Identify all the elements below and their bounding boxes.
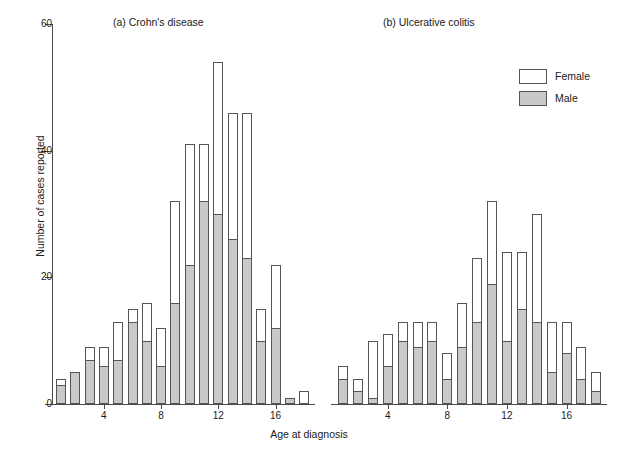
legend-label-male: Male <box>555 92 578 104</box>
male-swatch-icon <box>519 91 547 106</box>
bar-male-age-5 <box>398 341 408 404</box>
bar-male-age-10 <box>185 265 195 404</box>
bar-male-age-9 <box>170 303 180 404</box>
bar-male-age-2 <box>353 391 363 404</box>
bar-male-age-11 <box>199 201 209 404</box>
bar-male-age-4 <box>383 366 393 404</box>
bar-male-age-13 <box>228 239 238 404</box>
x-tick-label-16: 16 <box>266 410 286 421</box>
bar-male-age-8 <box>442 379 452 404</box>
panel-b-title: (b) Ulcerative colitis <box>383 16 475 28</box>
x-tick-mark-12 <box>507 404 508 409</box>
bar-male-age-12 <box>213 214 223 404</box>
legend-item-female: Female <box>519 66 615 88</box>
bar-male-age-11 <box>487 284 497 404</box>
y-tick-60: 60 <box>0 24 52 25</box>
y-tick-0: 0 <box>0 404 52 405</box>
x-tick-label-8: 8 <box>437 410 457 421</box>
legend-item-male: Male <box>519 88 615 110</box>
x-tick-mark-12 <box>218 404 219 409</box>
bar-male-age-8 <box>156 366 166 404</box>
bar-male-age-3 <box>368 398 378 404</box>
bar-male-age-12 <box>502 341 512 404</box>
figure-root: 0204060 481216 481216 (a) Crohn's diseas… <box>0 0 618 450</box>
panel-a-title: (a) Crohn's disease <box>113 16 204 28</box>
bar-male-age-1 <box>338 379 348 404</box>
y-tick-label-0: 0 <box>24 399 52 409</box>
bar-male-age-16 <box>562 353 572 404</box>
x-tick-label-8: 8 <box>151 410 171 421</box>
x-axis-title: Age at diagnosis <box>0 428 618 440</box>
x-tick-mark-8 <box>161 404 162 409</box>
bar-male-age-7 <box>427 341 437 404</box>
y-axis-line <box>52 24 53 405</box>
bar-male-age-10 <box>472 322 482 404</box>
bar-total-age-18 <box>299 391 309 404</box>
bar-male-age-4 <box>99 366 109 404</box>
bar-male-age-6 <box>413 347 423 404</box>
x-tick-label-4: 4 <box>94 410 114 421</box>
bar-male-age-5 <box>113 360 123 404</box>
x-tick-mark-8 <box>447 404 448 409</box>
y-axis-title: Number of cases reported <box>34 96 46 296</box>
bar-male-age-2 <box>70 372 80 404</box>
bar-male-age-3 <box>85 360 95 404</box>
x-tick-mark-4 <box>104 404 105 409</box>
x-tick-label-12: 12 <box>208 410 228 421</box>
legend-label-female: Female <box>555 70 590 82</box>
bar-male-age-14 <box>532 322 542 404</box>
bar-total-age-3 <box>368 341 378 404</box>
bar-male-age-14 <box>242 258 252 404</box>
x-tick-mark-16 <box>567 404 568 409</box>
x-tick-mark-4 <box>388 404 389 409</box>
bar-male-age-15 <box>547 372 557 404</box>
bar-male-age-1 <box>56 385 66 404</box>
bar-male-age-13 <box>517 309 527 404</box>
bar-male-age-16 <box>271 328 281 404</box>
female-swatch-icon <box>519 69 547 84</box>
bar-male-age-17 <box>576 379 586 404</box>
legend: Female Male <box>519 66 615 110</box>
bar-male-age-17 <box>285 398 295 404</box>
x-tick-label-12: 12 <box>497 410 517 421</box>
bar-male-age-15 <box>256 341 266 404</box>
x-tick-mark-16 <box>276 404 277 409</box>
y-tick-label-60: 60 <box>24 19 52 29</box>
x-tick-label-16: 16 <box>557 410 577 421</box>
bar-male-age-18 <box>591 391 601 404</box>
x-tick-label-4: 4 <box>378 410 398 421</box>
bar-male-age-9 <box>457 347 467 404</box>
bar-male-age-7 <box>142 341 152 404</box>
bar-male-age-6 <box>128 322 138 404</box>
